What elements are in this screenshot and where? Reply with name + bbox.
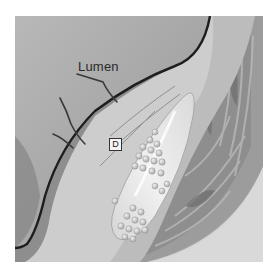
artery-illustration: Lumen D: [15, 16, 263, 262]
artery-cross-section-drawing: [15, 16, 263, 262]
lumen-label: Lumen: [78, 59, 119, 74]
marker-d-label: D: [109, 138, 122, 151]
